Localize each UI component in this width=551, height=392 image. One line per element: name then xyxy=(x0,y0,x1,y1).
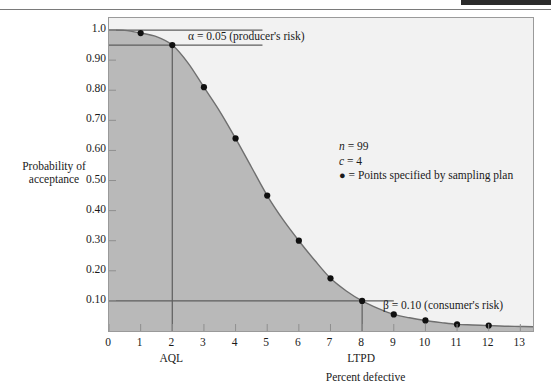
axis-marker-ltpd: LTPD xyxy=(331,352,391,364)
x-tick-label: 13 xyxy=(504,336,534,348)
y-tick-label: 0.30 xyxy=(66,234,106,246)
x-tick-label: 8 xyxy=(346,336,376,348)
legend-c-symbol: c xyxy=(339,155,344,167)
x-tick-label: 12 xyxy=(473,336,503,348)
legend-n-symbol: n xyxy=(339,140,345,152)
x-tick-label: 0 xyxy=(93,336,123,348)
legend-n-value: = 99 xyxy=(348,140,369,152)
scan-artifact-bar xyxy=(461,0,551,5)
data-point xyxy=(232,135,238,141)
x-tick-label: 2 xyxy=(156,336,186,348)
x-tick-label: 10 xyxy=(409,336,439,348)
y-tick-label: 0.60 xyxy=(66,143,106,155)
x-axis-title: Percent defective xyxy=(0,371,551,383)
data-point xyxy=(296,238,302,244)
data-point xyxy=(264,192,270,198)
data-point xyxy=(359,298,365,304)
x-axis-tick-labels: 012345678910111213 xyxy=(0,336,551,356)
y-axis-title-line1: Probability of xyxy=(22,160,86,172)
legend-c-value: = 4 xyxy=(347,155,362,167)
axis-marker-aql: AQL xyxy=(141,352,201,364)
x-tick-label: 3 xyxy=(188,336,218,348)
legend-acceptance-number: c = 4 xyxy=(339,154,513,169)
y-tick-label: 0.40 xyxy=(66,204,106,216)
y-axis-tick-labels: 0.100.200.300.400.500.600.700.800.901.0 xyxy=(60,0,106,392)
x-tick-label: 9 xyxy=(378,336,408,348)
x-tick-label: 11 xyxy=(441,336,471,348)
data-point xyxy=(391,311,397,317)
alpha-annotation: α = 0.05 (producer's risk) xyxy=(188,30,304,43)
y-tick-label: 1.0 xyxy=(66,23,106,35)
chart-figure: 0.100.200.300.400.500.600.700.800.901.0 … xyxy=(0,0,551,392)
y-tick-label: 0.80 xyxy=(66,83,106,95)
x-tick-label: 4 xyxy=(220,336,250,348)
beta-annotation: β = 0.10 (consumer's risk) xyxy=(383,299,503,312)
x-tick-label: 5 xyxy=(251,336,281,348)
data-point xyxy=(201,84,207,90)
chart-legend: n = 99 c = 4 ● = Points specified by sam… xyxy=(339,139,513,183)
data-point xyxy=(422,317,428,323)
legend-sample-size: n = 99 xyxy=(339,139,513,154)
data-point xyxy=(169,42,175,48)
y-tick-label: 0.70 xyxy=(66,113,106,125)
y-axis-title-line2: acceptance xyxy=(29,173,79,185)
legend-points-entry: ● = Points specified by sampling plan xyxy=(339,168,513,183)
x-tick-label: 7 xyxy=(314,336,344,348)
y-axis-title: Probability of acceptance xyxy=(6,160,102,186)
x-tick-label: 6 xyxy=(283,336,313,348)
y-tick-label: 0.10 xyxy=(66,294,106,306)
legend-points-label: = Points specified by sampling plan xyxy=(349,169,514,181)
y-tick-label: 0.90 xyxy=(66,53,106,65)
y-tick-label: 0.20 xyxy=(66,264,106,276)
legend-dot-icon: ● xyxy=(339,169,346,181)
data-point xyxy=(138,30,144,36)
data-point xyxy=(327,275,333,281)
x-tick-label: 1 xyxy=(125,336,155,348)
